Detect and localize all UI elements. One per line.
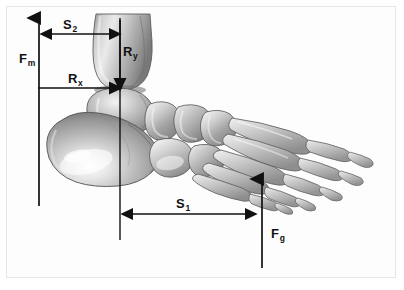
reaction-force-x-label: Rx — [68, 71, 83, 86]
distance-s1-label: S1 — [176, 196, 190, 211]
muscle-force-label: Fm — [19, 51, 35, 66]
diagram-canvas — [0, 0, 404, 290]
figure-root: Fm S2 Ry Rx S1 Fg — [0, 0, 404, 290]
distance-s2-label: S2 — [63, 17, 77, 32]
foot-skeleton — [47, 14, 373, 214]
reaction-force-y-label: Ry — [123, 44, 138, 59]
ground-reaction-force-label: Fg — [271, 226, 285, 241]
